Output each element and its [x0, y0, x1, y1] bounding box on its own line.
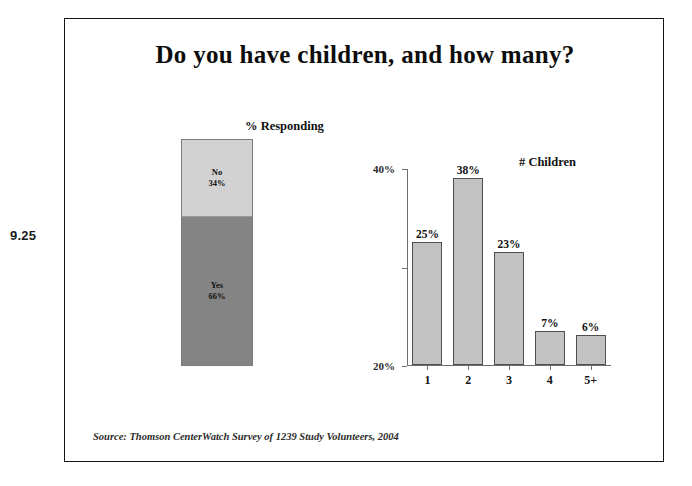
- stack-segment-no-label: No 34%: [209, 167, 226, 188]
- column-value-label: 7%: [541, 317, 558, 329]
- stacked-bar-column: No 34% Yes 66%: [181, 139, 253, 366]
- y-tick-mark: 0%: [402, 366, 407, 367]
- stack-segment-no-value: 34%: [209, 178, 226, 189]
- stacked-bar-chart: % Responding No 34% Yes 66%: [165, 115, 385, 385]
- column-bar[interactable]: 38%2: [453, 178, 483, 365]
- x-tick-mark: [550, 366, 551, 370]
- y-tick-mark: 20%: [402, 268, 407, 269]
- x-tick-mark: [427, 366, 428, 370]
- stacked-chart-caption: % Responding: [245, 119, 324, 134]
- x-category-label: 5+: [584, 373, 597, 388]
- column-bar[interactable]: 23%3: [494, 252, 524, 365]
- column-value-label: 6%: [582, 321, 599, 333]
- y-tick-mark: 40%: [402, 169, 407, 170]
- stack-segment-yes-label: Yes 66%: [209, 280, 226, 301]
- column-bar[interactable]: 25%1: [412, 242, 442, 365]
- stack-segment-no[interactable]: No 34%: [182, 140, 252, 217]
- stack-segment-yes-value: 66%: [209, 291, 226, 302]
- source-note: Source: Thomson CenterWatch Survey of 12…: [93, 431, 399, 442]
- column-bar[interactable]: 7%4: [535, 331, 565, 365]
- slide-number: 9.25: [10, 228, 36, 243]
- x-tick-mark: [468, 366, 469, 370]
- x-category-label: 2: [465, 373, 471, 388]
- column-chart: # Children 0%20%40% 25%138%223%37%46%5+: [371, 151, 621, 391]
- page-title: Do you have children, and how many?: [65, 41, 665, 69]
- column-value-label: 23%: [498, 238, 521, 250]
- column-bar[interactable]: 6%5+: [576, 335, 606, 365]
- plot-area: 0%20%40% 25%138%223%37%46%5+: [407, 169, 611, 366]
- x-category-label: 3: [506, 373, 512, 388]
- y-tick-label: 20%: [373, 360, 395, 372]
- stack-segment-no-name: No: [212, 167, 222, 177]
- stack-segment-yes[interactable]: Yes 66%: [182, 217, 252, 365]
- x-tick-mark: [591, 366, 592, 370]
- slide-frame: Do you have children, and how many? % Re…: [64, 18, 664, 462]
- y-axis-line: [407, 169, 408, 366]
- x-tick-mark: [509, 366, 510, 370]
- y-tick-label: 40%: [373, 163, 395, 175]
- x-category-label: 4: [547, 373, 553, 388]
- x-category-label: 1: [424, 373, 430, 388]
- column-chart-caption: # Children: [519, 155, 576, 170]
- stack-segment-yes-name: Yes: [211, 280, 223, 290]
- column-value-label: 38%: [457, 164, 480, 176]
- column-value-label: 25%: [416, 228, 439, 240]
